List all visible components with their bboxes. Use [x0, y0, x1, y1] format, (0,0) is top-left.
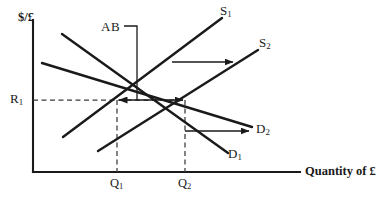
y-axis-title: $/£ [18, 11, 34, 24]
curve-label-s1-sub: 1 [227, 9, 231, 19]
x-tick-q2: Q2 [178, 177, 191, 190]
price-axis-label: R1 [10, 92, 23, 107]
curve-label-s2: S2 [259, 36, 271, 51]
curve-label-d2: D2 [256, 122, 270, 137]
curve-label-d1-text: D [228, 146, 237, 161]
curve-label-d1-sub: 1 [237, 152, 241, 162]
curve-label-d2-text: D [256, 121, 265, 136]
curve-label-d2-sub: 2 [265, 127, 269, 137]
curve-label-s1: S1 [220, 4, 232, 19]
x-axis-title: Quantity of £ [305, 165, 376, 178]
curve-label-d1: D1 [228, 147, 242, 162]
x-tick-q1-text: Q [110, 176, 119, 190]
x-tick-q1-sub: 1 [119, 181, 123, 191]
price-axis-label-text: R [10, 91, 19, 106]
x-tick-q2-sub: 2 [187, 181, 191, 191]
x-tick-q2-text: Q [178, 176, 187, 190]
x-tick-q1: Q1 [110, 177, 123, 190]
figure-canvas: $/£ Quantity of £ R1 Q1 Q2 S1 S2 D2 D1 A… [0, 0, 387, 197]
curves [42, 18, 258, 153]
price-axis-label-sub: 1 [19, 97, 23, 107]
curve-label-s2-sub: 2 [266, 41, 270, 51]
annotation-label-ab: AB [101, 20, 120, 33]
